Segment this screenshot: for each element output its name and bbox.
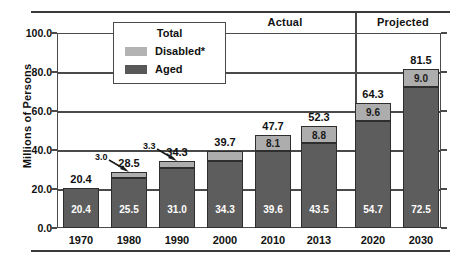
callout-arrow-1980: [107, 158, 137, 178]
y-axis-tick-mark-right: [441, 188, 447, 190]
y-axis-tick-mark-right: [441, 227, 447, 229]
bar-value-aged: 20.4: [64, 205, 98, 215]
bar-segment-aged: 25.5: [111, 178, 147, 228]
callout-label-1980: 3.0: [95, 152, 108, 162]
y-axis-tick-label: 60.0: [6, 106, 52, 117]
callout-label-1990: 3.3: [143, 141, 156, 151]
bottom-divider-rule: [31, 250, 450, 252]
y-axis-tick-label: 40.0: [6, 145, 52, 156]
bar-total-label: 20.4: [53, 173, 109, 185]
period-header-projected: Projected: [356, 13, 450, 31]
bar-value-aged: 54.7: [356, 205, 390, 215]
legend-title: Total: [114, 27, 225, 39]
bar-value-aged: 43.5: [302, 205, 336, 215]
y-axis-tick-mark-right: [441, 71, 447, 73]
bar-segment-aged: 54.7: [355, 121, 391, 228]
y-axis-tick-label: 20.0: [6, 184, 52, 195]
bar-2000[interactable]: 34.339.7: [207, 151, 243, 228]
bar-value-disabled: 8.8: [302, 131, 336, 141]
bar-2010[interactable]: 39.68.147.7: [255, 135, 291, 228]
period-header-actual: Actual: [215, 13, 355, 31]
bar-1970[interactable]: 20.420.4: [63, 188, 99, 228]
bar-2013[interactable]: 43.58.852.3: [301, 126, 337, 228]
bar-segment-disabled: [207, 151, 243, 162]
legend-label-aged: Aged: [155, 63, 183, 75]
bar-2020[interactable]: 54.79.664.3: [355, 103, 391, 228]
bar-2030[interactable]: 72.59.081.5: [403, 69, 439, 228]
bar-segment-aged: 20.4: [63, 188, 99, 228]
bar-segment-disabled: 9.6: [355, 103, 391, 122]
legend-item-aged: Aged: [125, 63, 183, 75]
bar-total-label: 64.3: [345, 88, 401, 100]
y-axis-tick-mark-right: [441, 110, 447, 112]
y-axis-tick-label: 80.0: [6, 67, 52, 78]
bar-segment-disabled: 8.1: [255, 135, 291, 151]
x-axis-label-1990: 1990: [153, 232, 201, 248]
bar-value-disabled: 8.1: [256, 139, 290, 149]
x-axis-label-2013: 2013: [295, 232, 343, 248]
x-axis-label-2020: 2020: [349, 232, 397, 248]
legend: Total Disabled* Aged: [113, 22, 226, 84]
x-axis-label-1980: 1980: [105, 232, 153, 248]
bar-total-label: 81.5: [393, 54, 449, 66]
x-axis-label-2030: 2030: [397, 232, 445, 248]
bar-value-aged: 25.5: [112, 205, 146, 215]
chart-figure: Actual Projected Millions of Persons 100…: [0, 0, 461, 263]
y-axis-tick-mark-right: [441, 32, 447, 34]
bar-value-aged: 39.6: [256, 205, 290, 215]
bar-segment-aged: 34.3: [207, 161, 243, 228]
legend-swatch-disabled-icon: [125, 47, 147, 56]
bar-segment-aged: 39.6: [255, 151, 291, 228]
bar-total-label: 39.7: [197, 136, 253, 148]
legend-label-disabled: Disabled*: [155, 45, 205, 57]
x-axis-label-2000: 2000: [201, 232, 249, 248]
bar-1980[interactable]: 25.528.5: [111, 172, 147, 228]
y-axis-tick-label: 0.0: [6, 223, 52, 234]
bar-value-aged: 34.3: [208, 205, 242, 215]
bar-segment-aged: 31.0: [159, 168, 195, 228]
y-axis-tick-label: 100.0: [6, 28, 52, 39]
y-axis-tick-mark-right: [441, 149, 447, 151]
bar-segment-disabled: 9.0: [403, 69, 439, 87]
bar-value-disabled: 9.0: [404, 74, 438, 84]
x-axis-label-1970: 1970: [57, 232, 105, 248]
bar-value-aged: 72.5: [404, 205, 438, 215]
bar-value-disabled: 9.6: [356, 108, 390, 118]
bar-segment-aged: 43.5: [301, 143, 337, 228]
legend-item-disabled: Disabled*: [125, 45, 205, 57]
bar-total-label: 52.3: [291, 111, 347, 123]
legend-swatch-aged-icon: [125, 65, 147, 74]
bar-value-aged: 31.0: [160, 205, 194, 215]
x-axis-label-2010: 2010: [249, 232, 297, 248]
bar-segment-disabled: 8.8: [301, 126, 337, 143]
bar-1990[interactable]: 31.034.3: [159, 161, 195, 228]
bar-segment-aged: 72.5: [403, 87, 439, 228]
callout-arrow-1990: [155, 147, 185, 167]
